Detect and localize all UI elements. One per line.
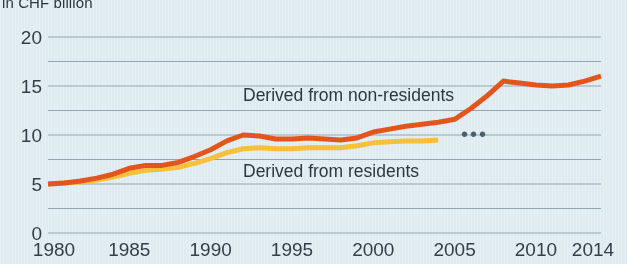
series-label-residents: Derived from residents	[243, 161, 419, 182]
y-tick-label: 20	[2, 28, 42, 47]
x-tick-label: 1985	[108, 240, 150, 259]
chart-container: in CHF billion 05101520 1980198519901995…	[0, 0, 627, 264]
x-tick-label: 1990	[190, 240, 232, 259]
y-tick-label: 10	[2, 126, 42, 145]
x-tick-label: 2000	[352, 240, 394, 259]
data-break-ellipsis-icon: •••	[461, 124, 488, 144]
series-label-non-residents: Derived from non-residents	[243, 85, 454, 106]
x-tick-label: 1995	[271, 240, 313, 259]
x-axis-tick-labels: 19801985199019952000200520102014	[0, 236, 627, 264]
x-tick-label: 2014	[572, 240, 614, 259]
plot-area	[0, 0, 627, 264]
gridlines	[48, 37, 601, 233]
x-tick-label: 2005	[433, 240, 475, 259]
y-tick-label: 15	[2, 77, 42, 96]
y-axis-tick-labels: 05101520	[0, 0, 42, 264]
x-tick-label: 1980	[33, 240, 75, 259]
y-tick-label: 5	[2, 175, 42, 194]
x-tick-label: 2010	[515, 240, 557, 259]
